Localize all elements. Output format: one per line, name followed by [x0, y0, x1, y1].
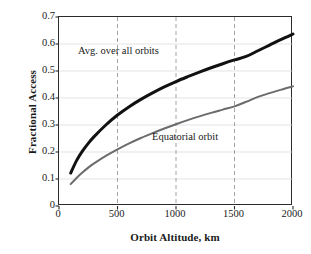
x-tick-label: 0	[33, 209, 83, 219]
series-label-equatorial-orbit: Equatorial orbit	[152, 131, 218, 142]
chart-figure: Fractional Access Orbit Altitude, km 00.…	[0, 0, 311, 254]
y-tick-label: 0.7	[15, 11, 55, 21]
x-tick-label: 1500	[209, 209, 259, 219]
x-tick-label: 1000	[150, 209, 200, 219]
y-tick-label: 0.2	[15, 146, 55, 156]
y-tick-label: 0.3	[15, 119, 55, 129]
series-label-avg-over-all-orbits: Avg. over all orbits	[78, 45, 159, 56]
y-axis-label: Fractional Access	[26, 32, 38, 192]
y-tick-label: 0.4	[15, 92, 55, 102]
x-axis-label: Orbit Altitude, km	[58, 231, 292, 243]
y-tick-label: 0.1	[15, 173, 55, 183]
x-tick-label: 500	[92, 209, 142, 219]
y-tick-label: 0.5	[15, 65, 55, 75]
y-tick-label: 0.6	[15, 38, 55, 48]
x-tick-label: 2000	[267, 209, 311, 219]
